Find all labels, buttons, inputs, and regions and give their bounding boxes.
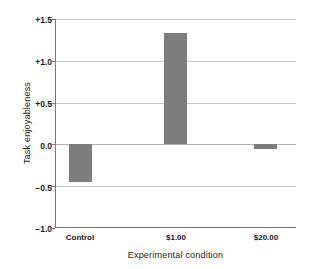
x-axis-line	[55, 227, 296, 228]
x-axis-title: Experimental condition	[55, 250, 296, 260]
bar-chart: Task enjoyableness +1.5 +1.0 +0.5 0.0 −0…	[0, 0, 309, 269]
bar-control	[69, 144, 92, 182]
y-axis-tick-labels: +1.5 +1.0 +0.5 0.0 −0.5 −1.0	[0, 0, 52, 269]
y-tick-label: −0.5	[6, 183, 52, 193]
y-tick-mark	[51, 228, 55, 229]
y-tick-label: −1.0	[6, 224, 52, 234]
x-tick-label-1-dollar: $1.00	[166, 233, 186, 242]
gridline-1-5	[55, 19, 296, 20]
plot-area	[55, 19, 296, 228]
y-tick-label: 0.0	[6, 141, 52, 151]
y-tick-label: +1.5	[6, 15, 52, 25]
bar-1-dollar	[164, 33, 187, 144]
y-axis-line	[55, 19, 56, 228]
bar-20-dollar	[254, 144, 277, 148]
x-tick-label-20-dollar: $20.00	[254, 233, 278, 242]
gridline-neg-0-5	[55, 186, 296, 187]
x-tick-label-control: Control	[66, 233, 94, 242]
y-tick-label: +0.5	[6, 99, 52, 109]
y-tick-label: +1.0	[6, 57, 52, 67]
